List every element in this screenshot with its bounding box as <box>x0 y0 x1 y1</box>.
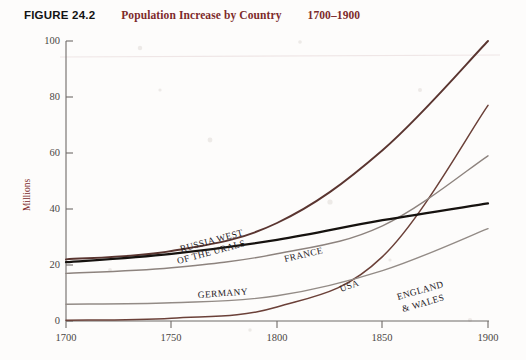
decorative-rule <box>60 55 500 57</box>
x-tick-1700: 1700 <box>56 332 77 343</box>
series-label-usa: USA <box>338 278 360 294</box>
series-label-germany: GERMANY <box>197 287 248 300</box>
page-title: Population Increase by Country <box>121 9 281 21</box>
y-tick-80: 80 <box>50 91 61 102</box>
x-tick-1800: 1800 <box>267 332 288 343</box>
y-tick-40: 40 <box>50 203 61 214</box>
figure-date-range: 1700–1900 <box>308 9 361 21</box>
x-tick-1900: 1900 <box>478 332 499 343</box>
x-tick-1850: 1850 <box>372 332 393 343</box>
chart-area: 0 20 40 60 80 100 1700 1750 1800 1850 19… <box>0 30 526 360</box>
figure-number: FIGURE 24.2 <box>24 9 95 21</box>
x-tick-1750: 1750 <box>161 332 182 343</box>
series-line-russia-west-of-the-urals <box>66 41 488 259</box>
y-tick-20: 20 <box>50 259 61 270</box>
y-tick-60: 60 <box>50 147 61 158</box>
population-line-chart: 0 20 40 60 80 100 1700 1750 1800 1850 19… <box>0 30 526 360</box>
series-label-france: FRANCE <box>283 245 324 264</box>
y-tick-100: 100 <box>44 35 60 46</box>
y-tick-0: 0 <box>55 315 60 326</box>
figure-header: FIGURE 24.2 Population Increase by Count… <box>0 0 526 30</box>
y-axis-title: Millions <box>22 179 32 212</box>
series-group <box>66 41 488 320</box>
